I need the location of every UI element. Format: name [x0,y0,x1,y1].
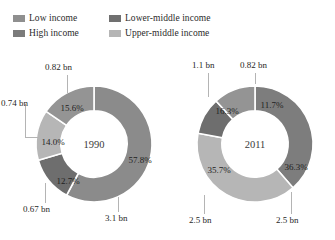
bn-label-1990-low-income: 0.82 bn [45,62,72,72]
donut-2011-center-year: 2011 [245,139,266,150]
pct-2011-upper-middle-income: 35.7% [207,165,231,175]
legend-label-upper-middle-income: Upper-middle income [125,27,209,40]
bn-label-1990-lower-middle-income: 0.74 bn [1,98,28,108]
donut-2011-svg: 2011 36.3% 35.7% 16.3% 11.7% [189,78,321,210]
leader-line-1990-lower-middle-horizontal [25,137,39,138]
legend-label-lower-middle-income: Lower-middle income [125,12,210,25]
leader-line-1990-low-income [67,75,68,93]
bn-label-2011-upper-middle-income: 2.5 bn [189,215,212,225]
legend-item-high-income: High income [13,27,101,40]
donut-1990-center-year: 1990 [84,139,105,150]
donut-chart-1990: 1990 57.8% 12.7% 14.0% 15.6% [28,78,160,210]
legend-item-lower-middle-income: Lower-middle income [109,12,243,25]
legend-swatch-low-income [13,15,25,22]
chart-canvas: Low income Lower-middle income High inco… [0,0,335,240]
bn-label-1990-upper-middle-income: 0.67 bn [23,204,50,214]
pct-2011-high-income: 36.3% [284,162,308,172]
pct-1990-high-income: 57.8% [128,155,152,165]
bn-label-2011-high-income: 2.5 bn [276,215,299,225]
leader-line-1990-lower-middle-vertical [25,104,26,137]
legend-swatch-upper-middle-income [109,30,121,37]
pct-1990-upper-middle-income: 12.7% [56,176,80,186]
pct-2011-lower-middle-income: 16.3% [215,106,239,116]
pct-1990-low-income: 15.6% [60,103,84,113]
leader-line-1990-upper-middle [45,183,46,203]
legend-label-low-income: Low income [29,12,77,25]
bn-label-1990-high-income: 3.1 bn [105,213,128,223]
leader-line-2011-low-income [255,73,256,84]
pct-2011-low-income: 11.7% [261,100,284,110]
legend-label-high-income: High income [29,27,79,40]
legend-swatch-lower-middle-income [109,15,121,22]
legend: Low income Lower-middle income High inco… [13,12,243,40]
bn-label-2011-low-income: 0.82 bn [240,60,267,70]
legend-swatch-high-income [13,30,25,37]
bn-label-2011-lower-middle-income: 1.1 bn [192,60,215,70]
donut-chart-2011: 2011 36.3% 35.7% 16.3% 11.7% [189,78,321,210]
leader-line-2011-upper-middle-income [204,195,205,214]
legend-item-upper-middle-income: Upper-middle income [109,27,243,40]
pct-1990-lower-middle-income: 14.0% [41,137,65,147]
leader-line-1990-high-income [118,197,119,212]
leader-line-2011-lower-middle-income [208,73,209,97]
legend-item-low-income: Low income [13,12,101,25]
leader-line-2011-high-income [291,192,292,214]
donut-1990-svg: 1990 57.8% 12.7% 14.0% 15.6% [28,78,160,210]
